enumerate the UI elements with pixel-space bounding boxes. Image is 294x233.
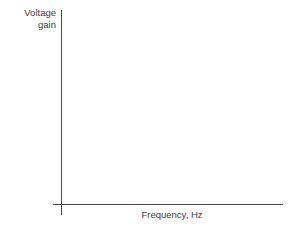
y-axis-line [61, 10, 62, 215]
plot-area [62, 10, 283, 204]
y-axis-label: Voltage gain [0, 7, 56, 31]
x-axis-line [53, 204, 283, 205]
x-axis-label: Frequency, Hz [61, 209, 283, 221]
chart-figure: Voltage gain Frequency, Hz [0, 0, 294, 233]
y-axis-label-line-1: Voltage [0, 7, 56, 19]
y-axis-label-line-2: gain [0, 19, 56, 31]
